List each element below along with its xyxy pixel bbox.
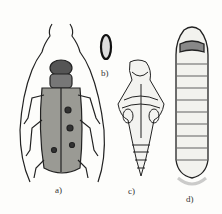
adult-beetle-drawing [20, 24, 104, 182]
label-d: d) [186, 194, 194, 204]
illustration-canvas [0, 0, 222, 214]
label-b: b) [101, 68, 109, 78]
egg-drawing [101, 35, 111, 59]
pupa-drawing [118, 60, 164, 176]
label-a: a) [55, 185, 62, 195]
label-c: c) [128, 186, 135, 196]
larva-drawing [176, 27, 208, 184]
insect-life-stages-figure: a) b) c) d) [0, 0, 222, 214]
